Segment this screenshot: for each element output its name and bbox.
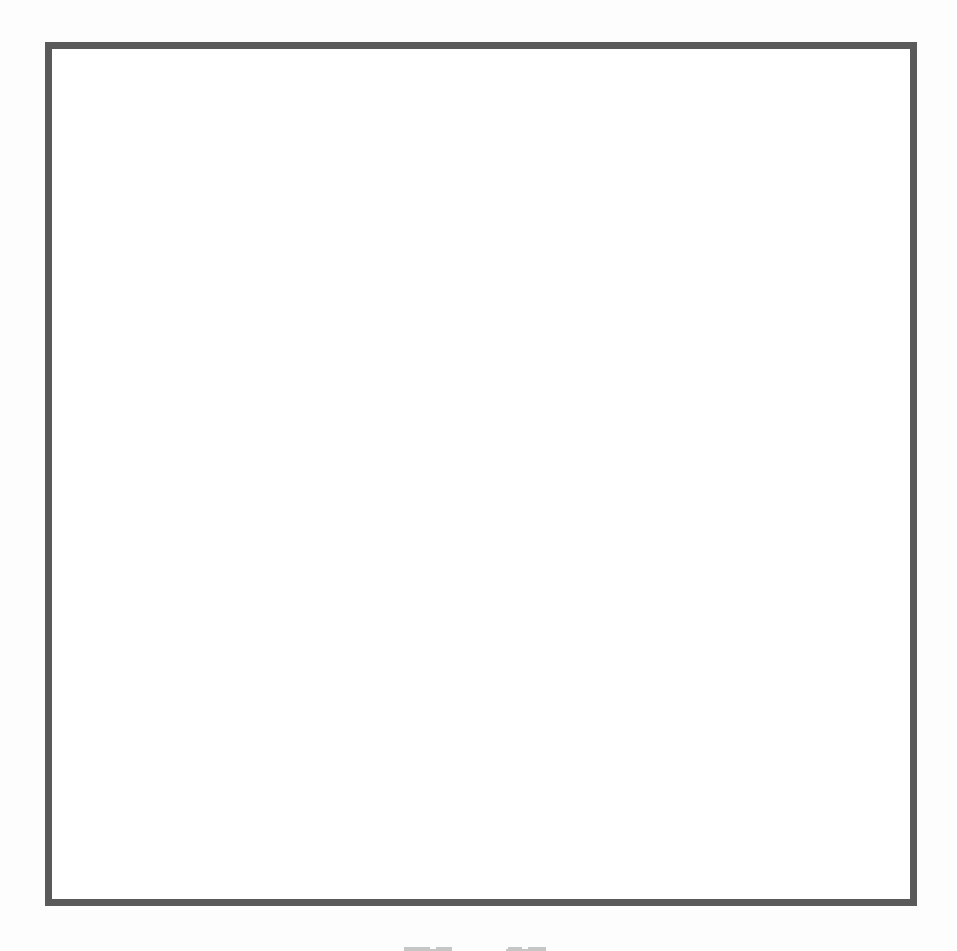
plate-border bbox=[45, 42, 917, 906]
illustration-plate: Botanical illustration plate Tree habit … bbox=[0, 0, 957, 951]
